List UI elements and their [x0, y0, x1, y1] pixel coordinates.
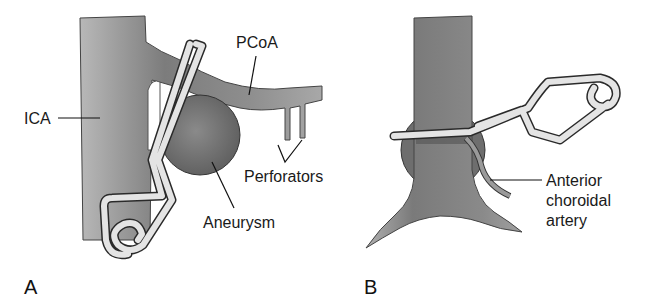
label-acha-line1: Anterior: [546, 172, 602, 190]
aneurysm-leader: [212, 162, 234, 208]
diagram-canvas: [0, 0, 652, 306]
label-acha-line3: artery: [546, 212, 587, 230]
panel-a-illustration: [58, 16, 322, 255]
label-aneurysm: Aneurysm: [203, 214, 275, 232]
panel-letter-a: A: [24, 276, 37, 299]
label-pcoa: PCoA: [236, 34, 278, 52]
label-acha-line2: choroidal: [546, 192, 611, 210]
label-perforators: Perforators: [244, 168, 323, 186]
panel-letter-b: B: [364, 276, 377, 299]
label-ica: ICA: [24, 110, 51, 128]
perforators-leader: [278, 140, 302, 162]
